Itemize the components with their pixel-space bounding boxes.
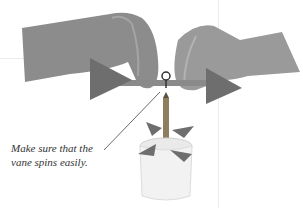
caption-line-2: vane spins easily.	[11, 155, 93, 169]
direction-marker	[172, 126, 194, 138]
illustration-figure: Make sure that the vane spins easily.	[0, 0, 303, 208]
wind-vane-illustration	[0, 0, 303, 208]
caption: Make sure that the vane spins easily.	[11, 141, 93, 169]
caption-line-1: Make sure that the	[11, 141, 93, 155]
pin-loop	[162, 72, 170, 80]
direction-marker	[146, 122, 162, 136]
